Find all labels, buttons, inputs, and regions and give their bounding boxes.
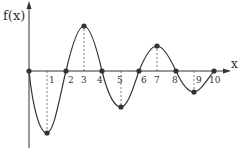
tick-10: 10: [209, 75, 221, 85]
x-axis-label: x: [231, 57, 238, 71]
tick-9: 9: [196, 75, 202, 85]
tick-7: 7: [154, 75, 160, 85]
function-graph: f(x) x 1 2 3 4 5 6 7 8 9 10: [0, 0, 246, 151]
y-axis-arrow-icon: [27, 1, 32, 9]
x-axis-arrow-icon: [223, 69, 231, 74]
tick-8: 8: [172, 75, 178, 85]
tick-5: 5: [117, 75, 123, 85]
tick-6: 6: [141, 75, 147, 85]
tick-3: 3: [81, 75, 87, 85]
tick-2: 2: [68, 75, 74, 85]
tick-1: 1: [49, 75, 55, 85]
y-axis-label: f(x): [3, 8, 25, 23]
tick-4: 4: [97, 75, 103, 85]
